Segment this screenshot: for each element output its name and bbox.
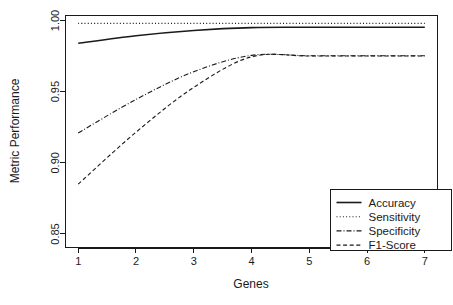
legend-label: Accuracy: [369, 197, 417, 209]
y-tick-label: 1.00: [49, 10, 61, 31]
x-tick-label: 3: [191, 255, 197, 267]
y-axis-title: Metric Performance: [8, 78, 22, 183]
legend-label: Specificity: [369, 225, 421, 237]
y-tick-label: 0.95: [49, 81, 61, 102]
series-line-f1-score: [78, 54, 425, 184]
line-chart: 0.850.900.951.00 1234567 Genes Metric Pe…: [0, 0, 453, 305]
chart-figure: 0.850.900.951.00 1234567 Genes Metric Pe…: [0, 0, 453, 305]
x-tick-label: 6: [364, 255, 370, 267]
series-group: [78, 23, 425, 184]
legend[interactable]: AccuracySensitivitySpecificityF1-Score: [331, 190, 452, 252]
x-axis-title: Genes: [233, 277, 268, 291]
y-axis: 0.850.900.951.00: [49, 10, 65, 245]
series-line-specificity: [78, 54, 425, 133]
y-tick-label: 0.90: [49, 152, 61, 173]
x-tick-label: 2: [133, 255, 139, 267]
x-tick-label: 7: [422, 255, 428, 267]
x-tick-label: 1: [75, 255, 81, 267]
legend-label: Sensitivity: [369, 211, 421, 223]
x-tick-label: 4: [248, 255, 254, 267]
x-tick-label: 5: [306, 255, 312, 267]
series-line-accuracy: [78, 27, 425, 43]
legend-label: F1-Score: [369, 239, 416, 251]
y-tick-label: 0.85: [49, 223, 61, 244]
